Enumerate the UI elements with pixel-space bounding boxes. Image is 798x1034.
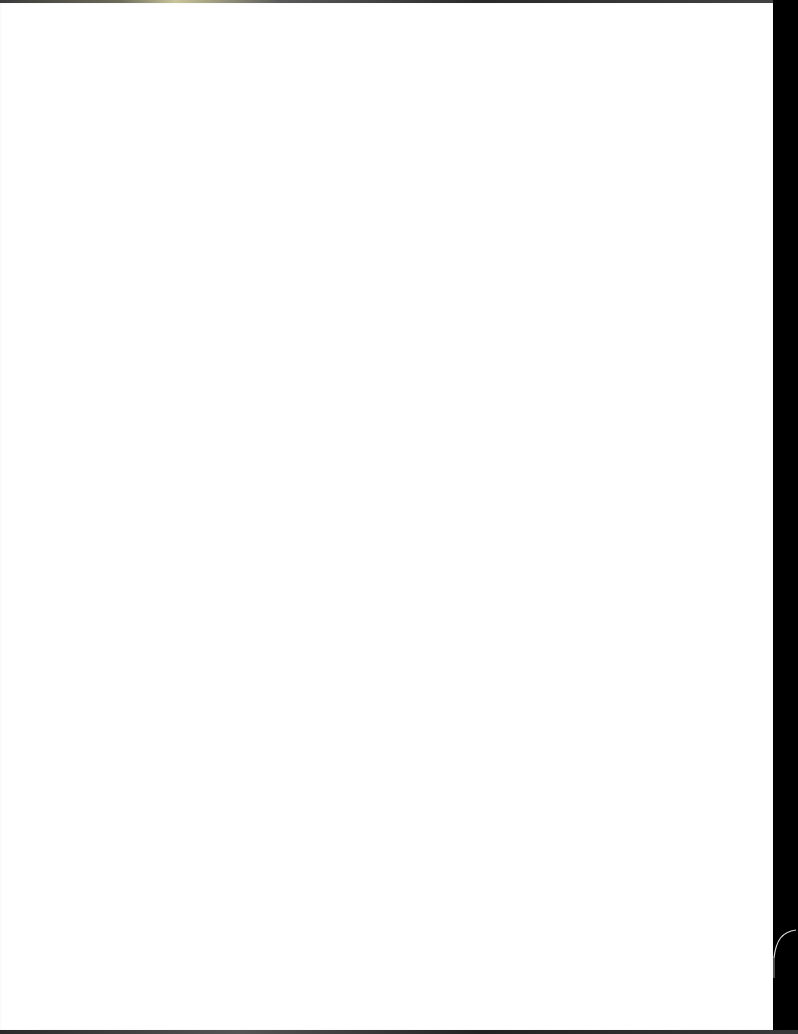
paper-curl-icon [772,918,798,978]
scanned-document [0,0,798,1034]
scan-bottom-edge [0,1030,798,1034]
scan-right-margin [773,0,798,1034]
blank-page [0,3,773,1030]
